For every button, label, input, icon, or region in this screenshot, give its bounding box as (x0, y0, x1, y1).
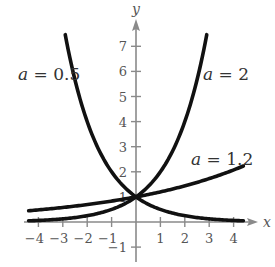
exponential-functions-chart: −4−3−2−11234−11234567 x y a = 0.5 a = 2 … (0, 0, 275, 267)
curve-a-2 (29, 35, 207, 221)
y-tick-label: 2 (119, 165, 127, 180)
x-tick-label: −2 (74, 231, 93, 246)
y-tick-label: 5 (119, 90, 127, 105)
y-tick-label: 4 (119, 115, 127, 130)
y-tick-label: −1 (108, 240, 127, 255)
curve-label-a-1-2: a = 1.2 (191, 149, 253, 169)
x-tick-label: −4 (25, 231, 44, 246)
x-tick-label: −3 (49, 231, 68, 246)
x-tick-label: 2 (181, 231, 189, 246)
axes (24, 19, 258, 262)
x-tick-label: 1 (156, 231, 164, 246)
y-tick-label: 3 (119, 140, 127, 155)
x-axis-label: x (263, 214, 271, 230)
curve-label-a-2: a = 2 (203, 64, 249, 84)
y-tick-label: 6 (119, 64, 127, 79)
x-tick-label: 3 (205, 231, 213, 246)
y-tick-label: 7 (119, 39, 127, 54)
curve-label-a-0-5: a = 0.5 (18, 64, 80, 84)
y-axis-label: y (131, 1, 141, 17)
x-tick-label: 4 (229, 231, 237, 246)
